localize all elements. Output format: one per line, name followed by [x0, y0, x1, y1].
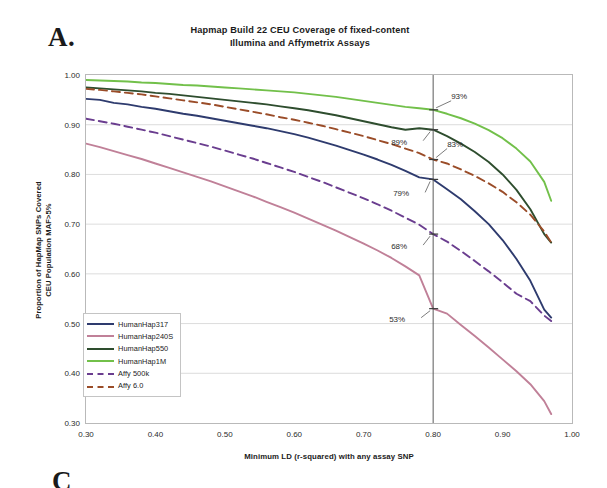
panel-letter-c: C — [52, 466, 72, 488]
annotation-label-53pct: 53% — [389, 315, 405, 324]
x-tick-label: 0.80 — [413, 430, 453, 439]
legend-swatch-icon — [87, 381, 114, 391]
annotation-label-68pct: 68% — [391, 242, 407, 251]
legend-label: HumanHap1M — [118, 357, 166, 366]
legend-label: HumanHap550 — [118, 344, 168, 353]
legend-label: HumanHap317 — [118, 320, 168, 329]
x-tick-label: 0.50 — [205, 430, 245, 439]
annotation-leader-line — [425, 181, 430, 192]
annotation-leader-line — [423, 236, 430, 245]
legend-label: HumanHap240S — [118, 332, 173, 341]
annotation-leader-line — [436, 101, 451, 108]
legend-label: Affy 500k — [118, 369, 149, 378]
annotation-leader-line — [421, 311, 430, 318]
y-tick-label: 0.80 — [48, 170, 80, 179]
annotation-label-93pct: 93% — [451, 92, 467, 101]
annotation-label-89pct: 89% — [391, 138, 407, 147]
legend-swatch-icon — [87, 344, 114, 354]
legend-swatch-icon — [87, 331, 114, 341]
y-tick-label: 0.90 — [48, 120, 80, 129]
legend-item: HumanHap550 — [87, 343, 177, 355]
x-tick-label: 0.40 — [135, 430, 175, 439]
y-axis-tick-labels: 0.300.400.500.600.700.800.901.00 — [46, 0, 80, 488]
y-tick-label: 1.00 — [48, 71, 80, 80]
annotation-label-79pct: 79% — [393, 189, 409, 198]
chart-title-line-1: Hapmap Build 22 CEU Coverage of fixed-co… — [120, 24, 480, 37]
legend-swatch-icon — [87, 319, 114, 329]
chart-legend: HumanHap317HumanHap240SHumanHap550HumanH… — [83, 313, 181, 397]
x-tick-label: 0.70 — [344, 430, 384, 439]
chart-title: Hapmap Build 22 CEU Coverage of fixed-co… — [120, 24, 480, 49]
annotation-label-83pct: 83% — [447, 140, 463, 149]
chart-title-line-2: Illumina and Affymetrix Assays — [120, 37, 480, 50]
y-tick-label: 0.70 — [48, 220, 80, 229]
x-tick-label: 0.30 — [66, 430, 106, 439]
legend-item: Affy 500k — [87, 367, 177, 379]
legend-item: Affy 6.0 — [87, 379, 177, 391]
annotation-leader-line — [423, 132, 430, 141]
x-tick-label: 1.00 — [552, 430, 592, 439]
legend-label: Affy 6.0 — [118, 381, 143, 390]
legend-item: HumanHap317 — [87, 318, 177, 330]
series-line-humanhap550 — [86, 87, 551, 242]
annotation-leader-line — [436, 149, 447, 158]
legend-item: HumanHap240S — [87, 330, 177, 342]
x-tick-label: 0.60 — [274, 430, 314, 439]
y-tick-label: 0.40 — [48, 369, 80, 378]
figure-root: A. Hapmap Build 22 CEU Coverage of fixed… — [0, 0, 607, 488]
series-line-affy-500k — [86, 119, 551, 321]
series-line-humanhap317 — [86, 99, 551, 318]
y-tick-label: 0.30 — [48, 419, 80, 428]
y-axis-title-line-1: Proportion of HapMap SNPs Covered — [34, 135, 44, 365]
legend-item: HumanHap1M — [87, 355, 177, 367]
legend-swatch-icon — [87, 368, 114, 378]
x-tick-label: 0.90 — [483, 430, 523, 439]
x-axis-title: Minimum LD (r-squared) with any assay SN… — [85, 452, 573, 461]
y-tick-label: 0.50 — [48, 319, 80, 328]
legend-swatch-icon — [87, 356, 114, 366]
y-tick-label: 0.60 — [48, 269, 80, 278]
